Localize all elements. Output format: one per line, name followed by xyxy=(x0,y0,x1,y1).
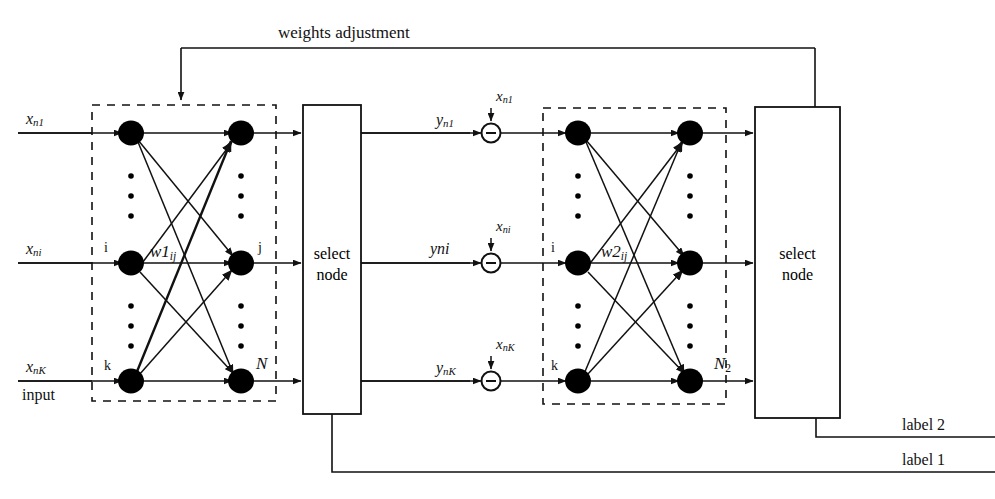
input-signal-x-nK: xnK xyxy=(26,358,46,376)
network2-node-label-i: i xyxy=(551,240,555,256)
network2-weight-main: w2 xyxy=(601,242,621,261)
stage1-output-rails xyxy=(361,133,481,381)
network2-synapses xyxy=(584,140,684,375)
y-nK-sub: nK xyxy=(443,365,456,377)
network2-weight-sub: ij xyxy=(621,250,627,263)
input-x-ni-sub: ni xyxy=(33,246,41,258)
teacher-x-nK-main: x xyxy=(496,336,503,352)
error-junction-y-n1: yn1 xyxy=(436,111,454,129)
teacher-x-ni-sub: ni xyxy=(503,224,511,235)
network1-node-label-N: N xyxy=(256,354,267,374)
error-junction-y-nK: ynK xyxy=(436,359,456,377)
teacher-signal-x-n1: xn1 xyxy=(496,88,513,105)
select-node-2-line1: select xyxy=(755,243,840,264)
input-caption: input xyxy=(22,386,55,404)
network1-node-label-k: k xyxy=(104,358,111,374)
teacher-signal-x-ni: xni xyxy=(496,218,511,235)
output-label-1: label 1 xyxy=(902,451,945,469)
error-junction-y-ni: yni xyxy=(430,240,450,258)
input-x-n1-sub: n1 xyxy=(33,116,44,128)
label1-feedback-path xyxy=(332,414,995,472)
weights-adjustment-label: weights adjustment xyxy=(278,23,410,43)
network1-node-label-i: i xyxy=(104,240,108,256)
teacher-x-nK-sub: nK xyxy=(503,342,515,353)
network2-output-label-N2: N2 xyxy=(714,354,731,375)
network1-weight-label: w1ij xyxy=(150,242,176,263)
input-signal-x-n1: xn1 xyxy=(26,110,44,128)
network2-ellipsis-dots xyxy=(575,173,693,349)
network2-N2-main: N xyxy=(714,354,725,373)
teacher-x-n1-sub: n1 xyxy=(503,94,513,105)
diagram-canvas: weights adjustment xn1 xni xnK input i k… xyxy=(0,0,995,499)
teacher-signal-x-nK: xnK xyxy=(496,336,515,353)
input-signal-x-ni: xni xyxy=(26,240,42,258)
network1-weight-sub: ij xyxy=(170,250,176,263)
network1-node-label-j: j xyxy=(258,240,262,256)
select-node-1-line2: node xyxy=(303,264,361,285)
teacher-x-n1-main: x xyxy=(496,88,503,104)
network2-weight-label: w2ij xyxy=(601,242,627,263)
select-node-2-text: select node xyxy=(755,243,840,285)
input-x-nK-sub: nK xyxy=(33,364,46,376)
output-label-2: label 2 xyxy=(902,416,945,434)
select-node-1-line1: select xyxy=(303,243,361,264)
select-node-1-text: select node xyxy=(303,243,361,285)
select-node-2-line2: node xyxy=(755,264,840,285)
network2-N2-sub: 2 xyxy=(725,362,731,375)
teacher-x-ni-main: x xyxy=(496,218,503,234)
y-n1-sub: n1 xyxy=(443,117,454,129)
network2-node-label-k: k xyxy=(551,358,558,374)
network1-weight-main: w1 xyxy=(150,242,170,261)
y-ni-sub: ni xyxy=(437,240,449,257)
